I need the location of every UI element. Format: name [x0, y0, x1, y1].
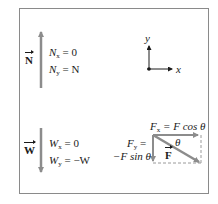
y-axis-label: y — [145, 32, 150, 44]
normal-force-y-component: Ny = N — [49, 63, 80, 75]
applied-force-label: F — [165, 149, 172, 161]
applied-force-x-component: Fx = F cos θ — [150, 120, 205, 132]
applied-force-y-value: −F sin θ — [113, 150, 151, 162]
coordinate-axes-icon — [147, 46, 172, 71]
normal-force-x-component: Nx = 0 — [49, 46, 77, 58]
weight-label: W — [24, 144, 35, 156]
diagram-graphics — [0, 0, 218, 204]
theta-label: θ — [175, 136, 180, 148]
normal-force-label: N — [25, 54, 33, 66]
applied-force-y-component: Fy = — [127, 137, 146, 149]
weight-y-component: Wy = −W — [49, 154, 90, 166]
x-axis-label: x — [176, 63, 181, 75]
weight-x-component: Wx = 0 — [49, 137, 79, 149]
